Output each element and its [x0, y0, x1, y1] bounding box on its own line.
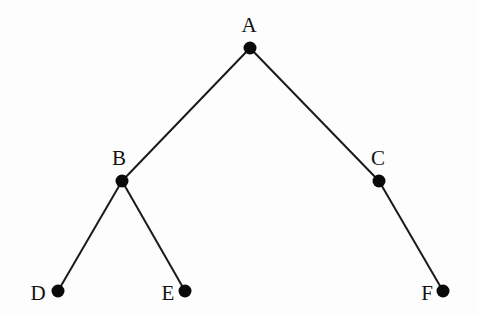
- edge-a-b: [122, 48, 250, 181]
- node-label-f: F: [421, 281, 433, 305]
- node-label-b: B: [112, 146, 126, 170]
- node-e: [179, 285, 192, 298]
- node-c: [373, 175, 386, 188]
- node-b: [116, 175, 129, 188]
- edge-b-e: [122, 181, 185, 291]
- tree-labels: ABCDEF: [30, 13, 432, 305]
- node-label-d: D: [30, 281, 45, 305]
- tree-diagram: ABCDEF: [0, 0, 477, 315]
- node-a: [244, 42, 257, 55]
- node-label-c: C: [371, 146, 385, 170]
- edge-b-d: [58, 181, 122, 291]
- edge-a-c: [250, 48, 379, 181]
- node-label-e: E: [162, 281, 175, 305]
- node-d: [52, 285, 65, 298]
- node-f: [437, 285, 450, 298]
- node-label-a: A: [241, 13, 257, 37]
- edge-c-f: [379, 181, 443, 291]
